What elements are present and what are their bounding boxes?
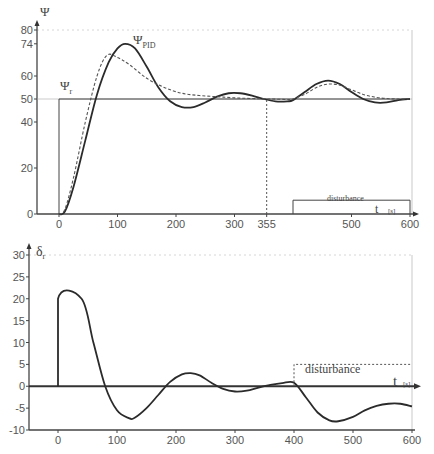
x-tick-label: 100 [108, 434, 126, 446]
x-tick-label: 300 [225, 218, 243, 230]
y-axis-arrow-icon [27, 243, 32, 249]
y-tick-label: 60 [21, 70, 33, 82]
bottom-labels: δr disturbance t [s] [36, 244, 410, 389]
y-tick-label: 30 [13, 249, 25, 261]
y-tick-label: 5 [19, 358, 25, 370]
x-tick-label: 200 [167, 434, 185, 446]
y-tick-label: 50 [21, 93, 33, 105]
top-chart-psi: 02040506074800100200300355500600 Ψ ΨPID … [21, 4, 419, 230]
delta-sub: r [43, 252, 46, 261]
psi-r-label: Ψr [60, 78, 73, 96]
psi-r-main: Ψ [60, 78, 70, 93]
x-tick-label: 600 [403, 434, 421, 446]
figure: 02040506074800100200300355500600 Ψ ΨPID … [0, 0, 434, 454]
y-tick-label: -10 [9, 424, 25, 436]
bottom-series [58, 290, 412, 421]
x-axis-arrow-icon [413, 212, 419, 217]
x-tick-label: 300 [226, 434, 244, 446]
series--dashed- [59, 54, 410, 214]
x-tick-label: 100 [108, 218, 126, 230]
y-tick-label: 20 [13, 293, 25, 305]
psi-pid-main: Ψ [133, 32, 143, 47]
x-tick-label: 400 [285, 434, 303, 446]
bottom-t-unit: [s] [403, 380, 410, 388]
y-tick-label: 0 [19, 380, 25, 392]
y-tick-label: 10 [13, 337, 25, 349]
y-tick-label: 40 [21, 116, 33, 128]
x-tick-label: 500 [342, 218, 360, 230]
psi-pid-label: ΨPID [133, 32, 156, 50]
psi-r-sub: r [70, 87, 73, 96]
top-disturbance-label: disturbance [327, 194, 364, 203]
bottom-y-axis-label: δr [36, 244, 46, 261]
top-series [59, 44, 410, 215]
x-tick-label: 355 [257, 218, 275, 230]
top-y-axis-label: Ψ [40, 4, 50, 19]
x-tick-label: 200 [167, 218, 185, 230]
x-tick-label: 500 [344, 434, 362, 446]
y-tick-label: 25 [13, 271, 25, 283]
bottom-disturbance-label: disturbance [305, 362, 360, 376]
y-tick-label: 15 [13, 315, 25, 327]
bottom-chart-delta: -10-50510152025300100200300400500600 δr … [9, 243, 421, 446]
psi-pid-sub: PID [143, 41, 156, 50]
top-t-unit: [s] [388, 207, 395, 215]
bottom-axes: -10-50510152025300100200300400500600 [9, 243, 421, 446]
series--pid [59, 44, 410, 215]
y-tick-label: -5 [15, 402, 25, 414]
y-tick-label: 80 [21, 24, 33, 36]
x-tick-label: 0 [56, 218, 62, 230]
series--r [58, 290, 412, 421]
y-tick-label: 20 [21, 162, 33, 174]
y-axis-arrow-icon [35, 20, 40, 26]
t-axis-arrow-icon [414, 383, 421, 389]
x-tick-label: 600 [401, 218, 419, 230]
x-tick-label: 0 [55, 434, 61, 446]
y-tick-label: 0 [27, 208, 33, 220]
y-tick-label: 74 [21, 38, 33, 50]
